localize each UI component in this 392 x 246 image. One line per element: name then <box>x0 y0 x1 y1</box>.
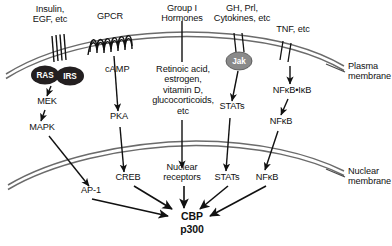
nucleus-label-ap-1: AP-1 <box>73 185 109 195</box>
cytoplasm-label-group-i-ligand-list: Retinoic acid, estrogen, vitamin D, gluc… <box>142 64 224 116</box>
nucleus-label-nfkb: NFκB <box>248 172 286 182</box>
ligand-label-gh-prl-cytokines: GH, Prl, Cytokines, etc <box>205 3 279 24</box>
cytoplasm-label-mek: MEK <box>28 96 66 106</box>
arrow-mapk-to-ap1 <box>49 136 89 186</box>
cytoplasm-label-mapk: MAPK <box>20 122 64 132</box>
cytokine-receptor-icon <box>234 33 244 52</box>
nucleus-label-stats: STATs <box>208 172 246 182</box>
arrow-nfkb-to-cbp <box>210 186 266 216</box>
cytoplasm-label-camp: cAMP <box>105 64 130 74</box>
arrow-jak-to-stats <box>232 71 238 101</box>
node-label-ras: RAS <box>31 71 59 80</box>
cytoplasm-label-nfkb: NFκB <box>262 116 300 126</box>
arrow-mek-to-mapk <box>41 110 45 121</box>
arrow-pka-to-creb <box>120 127 124 172</box>
arrow-nfkb-ikb-to-nfkb <box>281 99 288 115</box>
arrow-creb-to-cbp <box>134 186 172 209</box>
target-label-cbp: CBP <box>170 211 214 221</box>
nucleus-label-creb: CREB <box>107 172 149 182</box>
ligand-label-group-i-hormones: Group I Hormones <box>152 3 212 24</box>
nucleus-label-nuclear-receptors: Nuclear receptors <box>158 162 206 183</box>
arrow-ap1-to-cbp <box>92 199 168 216</box>
membrane-label-nuclear: Nuclear membrane <box>348 166 392 187</box>
arrow-stats-into-nucleus <box>226 118 230 171</box>
ligand-label-gpcr: GPCR <box>84 11 136 21</box>
arrow-stats-to-cbp <box>200 186 228 209</box>
ligand-label-insulin-egf: Insulin, EGF, etc <box>18 4 82 25</box>
cytoplasm-label-nfkb-ikb: NFκB•IκB <box>263 85 321 95</box>
ligand-label-tnf: TNF, etc <box>268 24 318 34</box>
arrow-ras-to-mek <box>47 86 51 96</box>
signaling-pathway-figure: Insulin, EGF, etc GPCR Group I Hormones … <box>0 0 392 246</box>
node-label-jak: Jak <box>226 57 252 66</box>
arrow-nfkb-into-nucleus <box>265 131 278 170</box>
node-label-irs: IRS <box>56 72 84 81</box>
membrane-label-plasma: Plasma membrane <box>348 61 392 82</box>
target-label-p300: p300 <box>170 224 214 234</box>
cytoplasm-label-pka: PKA <box>101 111 137 121</box>
cytoplasm-label-stats: STATs <box>213 101 251 111</box>
